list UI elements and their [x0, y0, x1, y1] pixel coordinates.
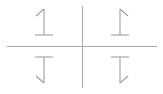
glyph-one-upright	[35, 9, 53, 35]
quadrant-bottom-left	[35, 57, 53, 83]
figure-canvas	[0, 0, 163, 94]
quadrant-bottom-right	[111, 57, 129, 83]
glyph-one-rotated-180	[111, 57, 129, 83]
glyph-one-flipped-vertical	[35, 57, 53, 83]
symmetry-figure: 1 1 1 1	[0, 0, 163, 94]
quadrant-top-right	[111, 9, 129, 35]
quadrant-top-left	[35, 9, 53, 35]
glyph-one-flipped-horizontal	[111, 9, 129, 35]
axis-group	[7, 6, 157, 88]
